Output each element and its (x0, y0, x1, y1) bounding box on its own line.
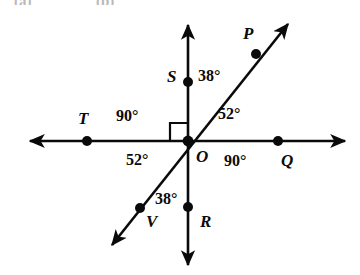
point-dot-S (183, 77, 193, 87)
point-label-V: V (146, 213, 157, 230)
point-dot-R (183, 202, 193, 212)
point-dot-P (251, 49, 261, 59)
point-label-R: R (200, 213, 211, 230)
angle-label-90-lower-right: 90° (224, 153, 246, 169)
angle-label-90-upper-left: 90° (116, 108, 138, 124)
point-label-T: T (78, 110, 88, 127)
angle-label-38-upper: 38° (198, 68, 220, 84)
angle-label-52-lower-left: 52° (126, 152, 148, 168)
point-dot-T (82, 136, 92, 146)
point-dot-origin (183, 136, 194, 147)
point-label-S: S (167, 68, 176, 85)
point-dot-V (135, 203, 145, 213)
geometry-figure (0, 0, 360, 275)
point-dot-Q (273, 136, 283, 146)
point-label-O: O (196, 148, 208, 165)
point-label-P: P (243, 25, 253, 42)
angle-label-38-lower: 38° (155, 191, 177, 207)
figure-canvas: (a) (b) T Q S R P V O 90° 38° 52° 52° 90… (0, 0, 360, 275)
point-label-Q: Q (281, 152, 293, 169)
angle-label-52-upper-right: 52° (218, 106, 240, 122)
labeled-points-group (82, 49, 283, 213)
